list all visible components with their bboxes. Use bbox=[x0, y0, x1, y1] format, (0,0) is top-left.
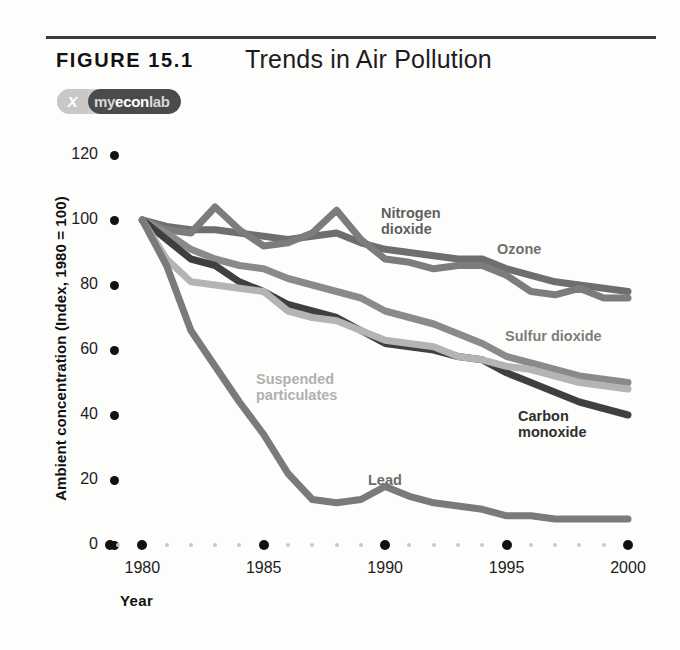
figure-container: FIGURE 15.1 Trends in Air Pollution X my… bbox=[0, 0, 680, 650]
plot-area: Ambient concentration (Index, 1980 = 100… bbox=[0, 0, 680, 650]
series-label-nitrogen-dioxide: Nitrogen dioxide bbox=[381, 205, 441, 237]
series-label-lead: Lead bbox=[368, 472, 402, 488]
series-label-suspended-particulates: Suspended particulates bbox=[256, 371, 337, 403]
series-label-sulfur-dioxide: Sulfur dioxide bbox=[505, 328, 602, 344]
series-line bbox=[142, 220, 628, 383]
series-lines bbox=[0, 0, 680, 650]
series-label-ozone: Ozone bbox=[497, 241, 541, 257]
series-label-carbon-monoxide: Carbon monoxide bbox=[518, 408, 586, 440]
